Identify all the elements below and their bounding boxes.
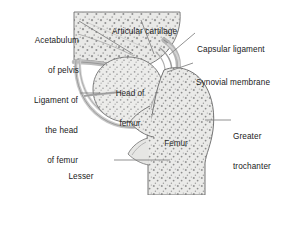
label-head-of-femur-line2: femur [100,119,160,129]
label-greater-trochanter-line2: trochanter [233,162,288,172]
lesser-trochanter [128,138,149,165]
label-lesser-trochanter-line1: Lesser [48,172,114,182]
label-greater-trochanter: Greater trochanter [233,112,288,182]
label-acetabulum-line2: of pelvis [0,66,79,76]
label-head-of-femur-line1: Head of [100,89,160,99]
label-synovial-membrane: Synovial membrane [196,58,288,98]
label-acetabulum-line1: Acetabulum [0,36,79,46]
label-greater-trochanter-line1: Greater [233,132,288,142]
label-femur-line1: Femur [158,139,194,149]
label-capsular-ligament-line1: Capsular ligament [197,45,288,55]
label-synovial-membrane-line1: Synovial membrane [196,78,288,88]
label-lesser-trochanter: Lesser trochanter [48,152,114,195]
label-head-of-femur: Head of femur [100,69,160,139]
label-ligament-of-head-line2: the head [0,126,78,136]
label-femur: Femur [158,119,194,159]
label-ligament-of-head-line1: Ligament of [0,96,78,106]
